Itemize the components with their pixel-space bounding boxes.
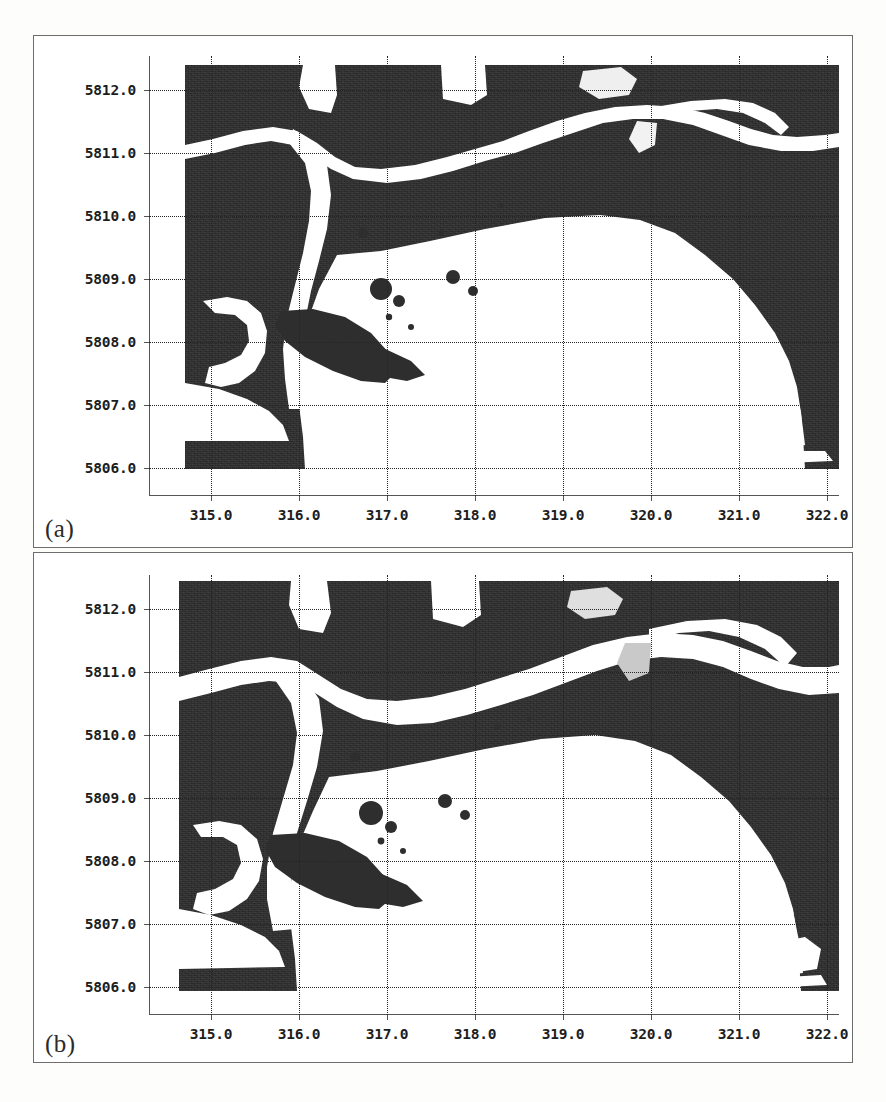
x-tick-label-a-4: 319.0 [542, 496, 585, 523]
x-tick-label-b-1: 316.0 [278, 1015, 321, 1042]
x-tick-label-b-7: 322.0 [806, 1015, 849, 1042]
figure-panel-a: 5812.0 5811.0 5810.0 5809.0 5808.0 5807.… [33, 35, 853, 548]
gridline-v-317 [387, 56, 388, 496]
x-tick-label-a-6: 321.0 [718, 496, 761, 523]
x-tick-label-b-6: 321.0 [718, 1015, 761, 1042]
x-tick-label-a-5: 320.0 [630, 496, 673, 523]
gridline-v-315 [211, 56, 212, 496]
gridline-h-5808 [149, 342, 839, 343]
gridline-v-315-b [211, 575, 212, 1015]
gridline-v-319-b [563, 575, 564, 1015]
y-tick-label-a-6: 5806.0 [85, 460, 149, 476]
gridline-v-316 [299, 56, 300, 496]
y-tick-label-b-5: 5807.0 [85, 916, 149, 932]
gridline-h-5809 [149, 279, 839, 280]
plot-area-b: 5812.0 5811.0 5810.0 5809.0 5808.0 5807.… [149, 575, 839, 1015]
x-tick-label-a-0: 315.0 [190, 496, 233, 523]
figure-panel-b: 5812.0 5811.0 5810.0 5809.0 5808.0 5807.… [33, 552, 853, 1063]
gridline-h-5806 [149, 468, 839, 469]
panel-caption-b: (b) [45, 1030, 76, 1058]
gridline-h-5806-b [149, 987, 839, 988]
gridline-h-5808-b [149, 861, 839, 862]
x-tick-label-a-1: 316.0 [278, 496, 321, 523]
x-tick-label-b-0: 315.0 [190, 1015, 233, 1042]
gridline-h-5811 [149, 153, 839, 154]
gridline-v-317-b [387, 575, 388, 1015]
gridline-h-5809-b [149, 798, 839, 799]
x-tick-label-b-5: 320.0 [630, 1015, 673, 1042]
y-tick-label-b-0: 5812.0 [85, 601, 149, 617]
gridline-v-322 [827, 56, 828, 496]
gridline-v-316-b [299, 575, 300, 1015]
y-tick-label-a-3: 5809.0 [85, 271, 149, 287]
gridline-h-5811-b [149, 672, 839, 673]
y-tick-label-b-4: 5808.0 [85, 853, 149, 869]
y-axis-line-b [149, 575, 150, 1015]
axes-b: 5812.0 5811.0 5810.0 5809.0 5808.0 5807.… [149, 575, 839, 1015]
gridline-v-318 [475, 56, 476, 496]
y-tick-label-b-3: 5809.0 [85, 790, 149, 806]
gridline-h-5812 [149, 90, 839, 91]
y-tick-label-a-5: 5807.0 [85, 397, 149, 413]
gridline-h-5812-b [149, 609, 839, 610]
x-tick-label-b-4: 319.0 [542, 1015, 585, 1042]
y-tick-label-a-4: 5808.0 [85, 334, 149, 350]
y-axis-line-a [149, 56, 150, 496]
gridline-v-319 [563, 56, 564, 496]
gridline-v-320-b [651, 575, 652, 1015]
plot-area-a: 5812.0 5811.0 5810.0 5809.0 5808.0 5807.… [149, 56, 839, 496]
gridline-h-5807 [149, 405, 839, 406]
gridline-h-5810-b [149, 735, 839, 736]
gridline-v-320 [651, 56, 652, 496]
panel-caption-a: (a) [45, 515, 74, 543]
y-tick-label-a-0: 5812.0 [85, 82, 149, 98]
x-tick-label-a-2: 317.0 [366, 496, 409, 523]
y-tick-label-b-2: 5810.0 [85, 727, 149, 743]
y-tick-label-a-1: 5811.0 [85, 145, 149, 161]
gridline-h-5807-b [149, 924, 839, 925]
gridline-v-322-b [827, 575, 828, 1015]
x-tick-label-a-7: 322.0 [806, 496, 849, 523]
x-tick-label-b-3: 318.0 [454, 1015, 497, 1042]
x-tick-label-b-2: 317.0 [366, 1015, 409, 1042]
axes-a: 5812.0 5811.0 5810.0 5809.0 5808.0 5807.… [149, 56, 839, 496]
gridline-h-5810 [149, 216, 839, 217]
x-tick-label-a-3: 318.0 [454, 496, 497, 523]
y-tick-label-a-2: 5810.0 [85, 208, 149, 224]
y-tick-label-b-1: 5811.0 [85, 664, 149, 680]
gridline-v-321 [739, 56, 740, 496]
y-tick-label-b-6: 5806.0 [85, 979, 149, 995]
gridline-v-321-b [739, 575, 740, 1015]
gridline-v-318-b [475, 575, 476, 1015]
